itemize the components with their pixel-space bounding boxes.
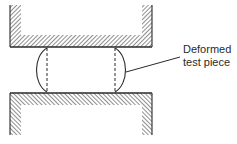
label-line-2: test piece <box>183 56 230 68</box>
label-line-1: Deformed <box>183 43 231 55</box>
lower-platen-hatch <box>10 93 152 135</box>
lower-platen <box>10 93 152 135</box>
leader-line <box>126 57 180 72</box>
upper-platen-hatch <box>10 5 152 47</box>
left-bulge <box>37 48 48 92</box>
diagram-canvas: Deformed test piece <box>0 0 237 144</box>
upper-platen <box>10 5 152 47</box>
deformed-test-piece <box>37 48 126 92</box>
right-bulge <box>115 48 126 92</box>
